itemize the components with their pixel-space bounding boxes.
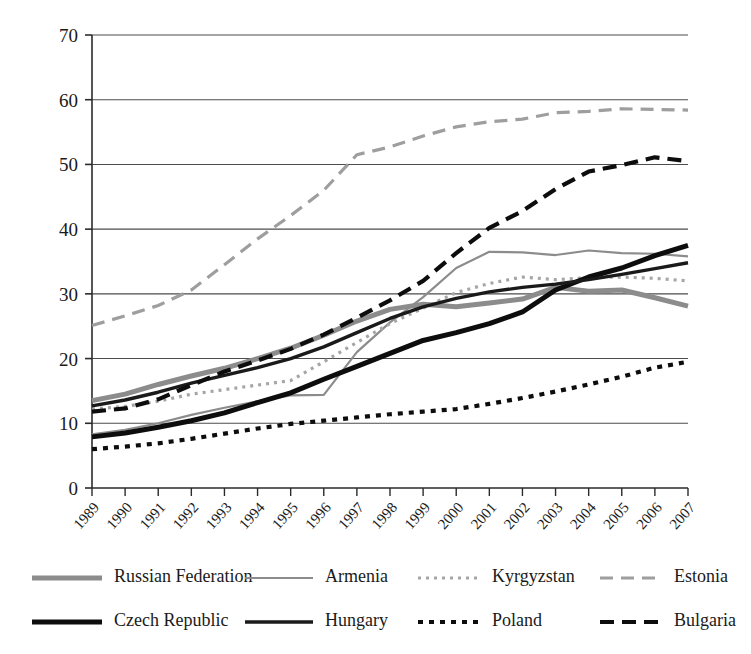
chart-legend: Russian FederationArmeniaKyrgyzstanEston… (32, 566, 736, 630)
legend-label-estonia: Estonia (674, 566, 728, 586)
axes (92, 35, 688, 488)
y-tick-label: 30 (59, 284, 78, 305)
y-tick-label: 50 (59, 154, 78, 175)
x-tick-label: 1989 (70, 499, 102, 532)
series-line (92, 263, 688, 406)
x-tick-label: 2002 (501, 499, 533, 532)
x-tick-label: 2003 (534, 499, 566, 532)
legend-label-armenia: Armenia (325, 566, 388, 586)
series-line (92, 287, 688, 400)
legend-label-hungary: Hungary (325, 610, 388, 630)
line-chart: 010203040506070 198919901991199219931994… (0, 0, 751, 654)
legend-label-poland: Poland (492, 610, 542, 630)
series-line (92, 362, 688, 449)
series-line (92, 245, 688, 437)
legend-label-czech-republic: Czech Republic (114, 610, 228, 630)
legend-label-russian-federation: Russian Federation (114, 566, 252, 586)
x-tick-label: 1994 (236, 499, 268, 532)
y-tick-label: 0 (69, 478, 79, 499)
y-tick-label: 70 (59, 25, 78, 46)
x-tick-label: 1997 (335, 499, 367, 532)
data-series (92, 109, 688, 449)
y-tick-label: 10 (59, 413, 78, 434)
x-tick-label: 1998 (368, 499, 400, 532)
y-tick-label: 20 (59, 349, 78, 370)
x-tick-label: 1996 (302, 499, 334, 532)
y-tick-label: 60 (59, 90, 78, 111)
x-tick-label: 1995 (269, 499, 301, 532)
y-tick-label: 40 (59, 219, 78, 240)
x-tick-label: 2001 (468, 499, 500, 532)
x-tick-label: 2000 (434, 499, 466, 532)
y-axis-ticks: 010203040506070 (59, 25, 92, 499)
chart-container: 010203040506070 198919901991199219931994… (0, 0, 751, 654)
x-tick-label: 1990 (103, 499, 135, 532)
x-tick-label: 2007 (666, 499, 698, 532)
legend-label-kyrgyzstan: Kyrgyzstan (492, 566, 575, 586)
x-tick-label: 2004 (567, 499, 599, 532)
gridlines (92, 35, 688, 423)
x-tick-label: 1991 (136, 499, 168, 532)
x-axis-ticks: 1989199019911992199319941995199619971998… (70, 488, 698, 532)
x-tick-label: 1992 (170, 499, 202, 532)
legend-label-bulgaria: Bulgaria (674, 610, 736, 630)
x-tick-label: 1999 (401, 499, 433, 532)
x-tick-label: 1993 (203, 499, 235, 532)
x-tick-label: 2006 (633, 499, 665, 532)
x-tick-label: 2005 (600, 499, 632, 532)
series-line (92, 157, 688, 411)
